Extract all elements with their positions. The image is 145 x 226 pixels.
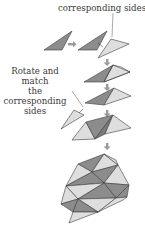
leader-line-side [72, 91, 83, 107]
arrow-right-icon [68, 41, 77, 48]
step2-dark [78, 31, 107, 50]
leader-line-top [112, 13, 113, 37]
step1-triangle [44, 31, 72, 50]
step4-new-light [61, 110, 84, 129]
diagram: corresponding sides Rotate and match the… [0, 0, 145, 226]
arrow-down-icon [104, 59, 111, 66]
arrow-rotate [79, 109, 83, 113]
diagram-graphic [0, 0, 145, 226]
step2-light [98, 39, 129, 58]
arrow-down-icon [104, 143, 111, 150]
arrow-down-icon [104, 84, 111, 91]
tessellation [61, 154, 129, 223]
